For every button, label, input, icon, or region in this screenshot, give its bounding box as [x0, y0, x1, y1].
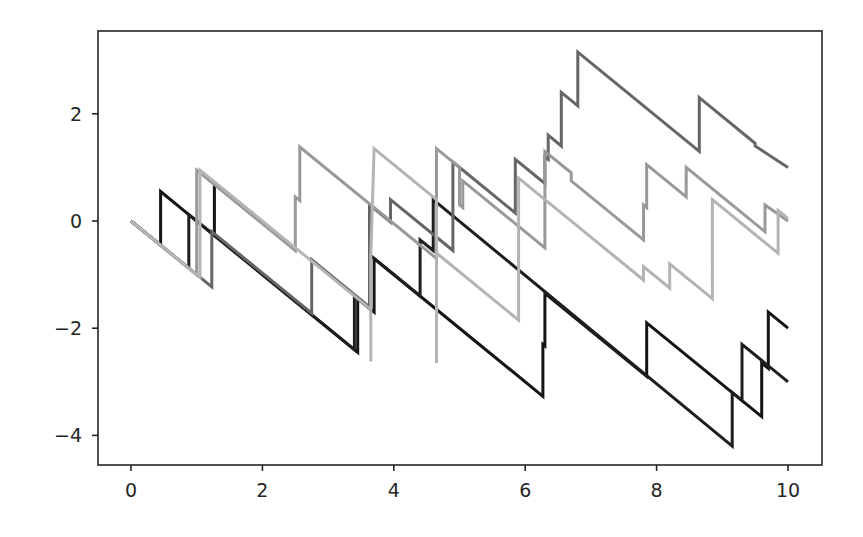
y-tick-label: −4	[54, 424, 82, 446]
x-tick-label: 4	[388, 479, 400, 501]
x-tick-label: 6	[519, 479, 531, 501]
y-tick-label: 0	[70, 210, 82, 232]
figure-background	[0, 0, 863, 537]
x-tick-label: 0	[125, 479, 137, 501]
chart-figure: 0246810 20−2−4	[0, 0, 863, 537]
y-tick-label: −2	[54, 317, 82, 339]
x-tick-label: 2	[256, 479, 268, 501]
x-tick-label: 10	[776, 479, 800, 501]
x-tick-label: 8	[651, 479, 663, 501]
y-tick-label: 2	[70, 103, 82, 125]
